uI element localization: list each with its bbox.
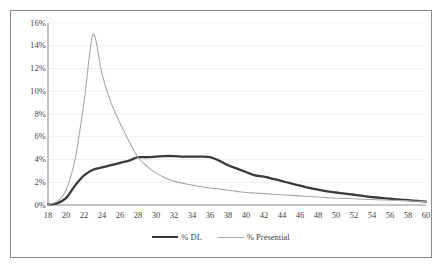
x-axis-tick-label: 60 (415, 211, 437, 220)
legend-item[interactable]: % DL (152, 233, 202, 242)
line-chart: 0%2%4%6%8%10%12%14%16% 18202224262830323… (11, 11, 431, 257)
legend-line-swatch-icon (152, 236, 178, 238)
legend-item-label: % DL (181, 233, 202, 242)
x-axis-tick-labels: 1820222426283032343638404244464850525456… (11, 11, 431, 257)
legend-item-label: % Presential (247, 233, 290, 242)
legend-item[interactable]: % Presential (218, 233, 290, 242)
legend-line-swatch-icon (218, 237, 244, 238)
chart-legend: % DL% Presential (11, 229, 431, 245)
figure-frame: 0%2%4%6%8%10%12%14%16% 18202224262830323… (10, 10, 432, 258)
